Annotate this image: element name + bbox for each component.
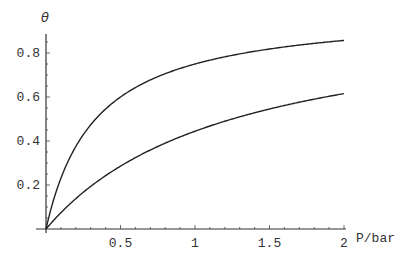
ticks (46, 42, 344, 229)
x-tick-label: 2 (340, 236, 348, 251)
y-tick-label: 0.2 (17, 178, 40, 193)
y-tick-label: 0.8 (17, 46, 40, 61)
isotherm-curve-upper (46, 40, 344, 229)
y-tick-label: 0.4 (17, 134, 41, 149)
tick-labels: 0.511.520.20.40.60.8 (17, 46, 348, 251)
x-tick-label: 0.5 (109, 236, 132, 251)
langmuir-isotherm-chart: 0.511.520.20.40.60.8 P/bar θ (0, 0, 418, 256)
y-tick-label: 0.6 (17, 90, 40, 105)
isotherm-curve-lower (46, 94, 344, 229)
axes (36, 34, 346, 233)
x-tick-label: 1 (191, 236, 199, 251)
x-tick-label: 1.5 (258, 236, 281, 251)
y-axis-label: θ (41, 10, 49, 25)
curves (46, 40, 344, 229)
x-axis-label: P/bar (356, 231, 395, 246)
